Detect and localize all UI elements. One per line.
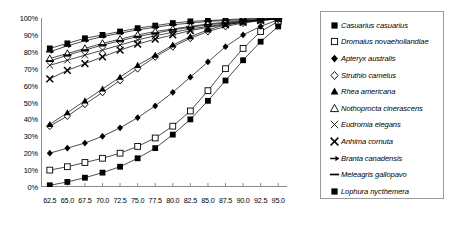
chart-canvas	[41, 18, 287, 187]
y-axis-tick-label: 70%	[4, 64, 38, 73]
chart-legend: Casuarius casuariusDromaius novaeholland…	[320, 11, 444, 199]
legend-item[interactable]: Lophura nycthemera	[321, 183, 443, 200]
legend-item[interactable]: Rhea americana	[321, 83, 443, 100]
legend-item-label: Apteryx australis	[341, 54, 395, 63]
legend-item[interactable]: Eudromia elegans	[321, 117, 443, 134]
legend-item-label: Lophura nycthemera	[341, 187, 409, 196]
y-axis-tick-label: 30%	[4, 132, 38, 141]
x-axis-tick-label: 90.0	[236, 196, 249, 205]
legend-item-label: Eudromia elegans	[341, 120, 401, 129]
x-axis-tick-label: 77.5	[149, 196, 162, 205]
legend-item-label: Rhea americana	[341, 87, 395, 96]
legend-item-label: Nothoprocta cinerascens	[341, 104, 423, 113]
x-axis-tick-label: 82.5	[184, 196, 197, 205]
legend-item[interactable]: Branta canadensis	[321, 150, 443, 167]
x-axis-tick-label: 95.0	[272, 196, 285, 205]
plot-area	[41, 18, 287, 187]
x-axis-tick-label: 62.5	[43, 196, 56, 205]
y-axis-tick-label: 10%	[4, 166, 38, 175]
legend-item-label: Anhima cornuta	[341, 137, 393, 146]
legend-item-label: Meleagris gallopavo	[341, 170, 407, 179]
legend-item-label: Struthio camelus	[341, 71, 396, 80]
legend-item-label: Casuarius casuarius	[341, 21, 408, 30]
legend-marker-filled-square-icon	[328, 19, 341, 32]
y-axis-tick-label: 100%	[4, 14, 38, 23]
legend-item[interactable]: Nothoprocta cinerascens	[321, 100, 443, 117]
y-axis-labels: 0%10%20%30%40%50%60%70%80%90%100%	[0, 18, 38, 187]
y-axis-tick-label: 40%	[4, 115, 38, 124]
legend-item[interactable]: Meleagris gallopavo	[321, 166, 443, 183]
legend-marker-open-triangle-icon	[328, 102, 341, 115]
legend-item[interactable]: Casuarius casuarius	[321, 17, 443, 34]
axes	[41, 18, 287, 187]
y-axis-tick-label: 20%	[4, 149, 38, 158]
legend-item-label: Dromaius novaehollandiae	[341, 37, 429, 46]
legend-marker-x-bold-icon	[328, 135, 341, 148]
x-axis-tick-label: 70.0	[96, 196, 109, 205]
legend-marker-filled-square-icon	[328, 185, 341, 198]
x-axis-tick-label: 85.0	[201, 196, 214, 205]
legend-item[interactable]: Apteryx australis	[321, 50, 443, 67]
x-axis-tick-label: 67.5	[78, 196, 91, 205]
y-axis-tick-label: 0%	[4, 183, 38, 192]
y-axis-tick-label: 50%	[4, 98, 38, 107]
chart-root: 0%10%20%30%40%50%60%70%80%90%100% 62.565…	[0, 0, 450, 239]
x-axis-tick-label: 87.5	[219, 196, 232, 205]
legend-item[interactable]: Anhima cornuta	[321, 133, 443, 150]
x-axis-tick-label: 75.0	[131, 196, 144, 205]
legend-item[interactable]: Struthio camelus	[321, 67, 443, 84]
legend-marker-filled-triangle-icon	[328, 85, 341, 98]
y-axis-tick-label: 80%	[4, 47, 38, 56]
series-line	[47, 18, 282, 130]
x-axis-tick-label: 92.5	[254, 196, 267, 205]
x-axis-tick-label: 72.5	[113, 196, 126, 205]
legend-marker-filled-diamond-icon	[328, 52, 341, 65]
legend-marker-open-square-icon	[328, 35, 341, 48]
y-axis-tick-label: 90%	[4, 30, 38, 39]
legend-marker-open-diamond-icon	[328, 69, 341, 82]
x-axis-labels: 62.565.067.570.072.575.077.580.082.585.0…	[41, 196, 287, 210]
legend-marker-dash-icon	[328, 168, 341, 181]
legend-marker-x-thin-icon	[328, 118, 341, 131]
y-axis-tick-label: 60%	[4, 81, 38, 90]
x-axis-tick-label: 80.0	[166, 196, 179, 205]
legend-item[interactable]: Dromaius novaehollandiae	[321, 34, 443, 51]
x-axis-tick-label: 65.0	[61, 196, 74, 205]
legend-item-label: Branta canadensis	[341, 154, 402, 163]
legend-marker-dash-arrow-icon	[328, 152, 341, 165]
